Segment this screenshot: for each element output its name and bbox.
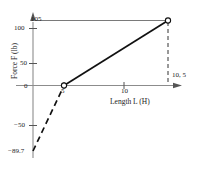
x-axis-title: Length L (H) — [110, 98, 150, 106]
y-tick-neg50-label: −50 — [14, 122, 25, 129]
y-value-neg89-7-label: −89.7 — [8, 148, 24, 155]
marker-upper-endpoint — [165, 18, 170, 23]
x-tick-10-label: 10 — [121, 88, 128, 95]
corner-coordinate-label: 10, 5 — [172, 72, 186, 79]
plot-canvas — [0, 0, 200, 171]
force-length-chart: 105 100 50 0 −50 −89.7 5 10 10, 5 Length… — [0, 0, 200, 171]
series-dashed-extrapolation — [33, 86, 64, 152]
y-axis-title: Force F (lb) — [10, 43, 19, 79]
y-value-105-label: 105 — [31, 16, 42, 23]
series-solid-line — [64, 21, 168, 86]
y-tick-50-label: 50 — [20, 60, 27, 67]
y-tick-0-label: 0 — [24, 83, 28, 90]
x-axis — [16, 83, 182, 89]
x-tick-5-label: 5 — [61, 88, 65, 95]
y-axis-title-wrapper: Force F (lb) — [3, 25, 21, 97]
